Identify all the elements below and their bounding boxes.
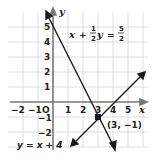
svg-text:2: 2 xyxy=(44,67,50,77)
equation-1-label: x + 1 2 y = 5 2 xyxy=(68,25,124,43)
svg-text:y: y xyxy=(96,29,104,40)
svg-text:1: 1 xyxy=(91,25,96,33)
x-axis-label: x xyxy=(138,104,146,115)
svg-text:−2: −2 xyxy=(38,128,52,138)
svg-text:1: 1 xyxy=(65,105,71,115)
svg-text:2: 2 xyxy=(91,35,96,43)
y-tick-labels: 5 4 3 2 1 −1 −2 xyxy=(38,22,52,138)
svg-text:4: 4 xyxy=(110,105,116,115)
svg-text:2: 2 xyxy=(80,105,86,115)
svg-text:−2: −2 xyxy=(11,105,25,115)
svg-text:1: 1 xyxy=(44,82,50,92)
svg-text:5: 5 xyxy=(44,22,50,32)
svg-text:2: 2 xyxy=(119,35,124,43)
svg-text:=: = xyxy=(107,30,115,40)
intersection-label: (3, −1) xyxy=(107,120,142,130)
svg-text:+: + xyxy=(79,30,87,40)
y-axis-label: y xyxy=(58,6,66,17)
svg-text:3: 3 xyxy=(95,105,101,115)
coordinate-graph: y x O −2 −1 1 2 3 4 5 5 4 3 2 1 −1 −2 x … xyxy=(0,0,158,163)
x-tick-labels: −2 −1 1 2 3 4 5 xyxy=(11,105,131,115)
svg-text:4: 4 xyxy=(44,37,50,47)
svg-text:−1: −1 xyxy=(38,113,52,123)
svg-text:3: 3 xyxy=(44,52,50,62)
svg-text:5: 5 xyxy=(119,25,124,33)
svg-text:x: x xyxy=(68,29,76,40)
svg-text:5: 5 xyxy=(125,105,131,115)
equation-2-label: y = x + 4 xyxy=(17,140,63,150)
